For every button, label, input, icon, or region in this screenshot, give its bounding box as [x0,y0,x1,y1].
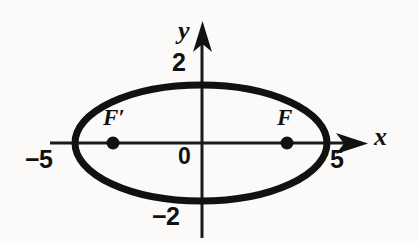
focus-right-label: F [277,106,292,129]
figure-canvas [0,0,419,241]
x-tick-label-5: 5 [330,147,343,172]
focus-right-point [281,137,294,150]
y-axis-label: y [178,18,190,44]
focus-left-label: F′ [103,106,125,129]
focus-left-point [107,137,120,150]
y-tick-label-2: 2 [172,50,185,75]
x-tick-label-neg5: −5 [25,147,53,172]
x-axis-label: x [374,124,387,150]
ellipse-figure: y x 2 −2 −5 5 0 F′ F [0,0,419,241]
y-tick-label-neg2: −2 [152,204,180,229]
origin-label: 0 [178,145,190,168]
